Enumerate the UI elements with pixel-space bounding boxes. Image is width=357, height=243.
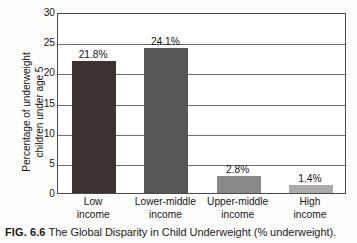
x-category-label-2-line-0: Upper-middle — [207, 196, 268, 209]
bar-3 — [289, 185, 333, 193]
figure-caption: FIG. 6.6 The Global Disparity in Child U… — [5, 226, 355, 239]
data-label-0: 21.8% — [79, 50, 108, 60]
y-tick-label-5: 5 — [30, 159, 55, 169]
y-tick-label-0: 0 — [30, 189, 55, 199]
x-category-label-0-line-0: Low — [77, 196, 110, 209]
gridline-25 — [58, 44, 345, 45]
data-label-1: 24.1% — [151, 37, 180, 47]
y-axis-tick-labels: 051015202530 — [30, 0, 55, 243]
y-tick-label-15: 15 — [30, 98, 55, 108]
x-category-label-2-line-1: income — [207, 209, 268, 222]
x-category-label-1: Lower-middleincome — [135, 196, 196, 221]
x-category-label-3-line-1: income — [293, 209, 326, 222]
data-label-3: 1.4% — [298, 174, 321, 184]
bar-2 — [217, 176, 261, 193]
y-tick-label-20: 20 — [30, 68, 55, 78]
x-category-label-3-line-0: High — [293, 196, 326, 209]
bar-1 — [144, 48, 188, 193]
figure-number: FIG. 6.6 — [5, 226, 46, 238]
x-category-label-2: Upper-middleincome — [207, 196, 268, 221]
x-category-label-0: Lowincome — [77, 196, 110, 221]
y-tick-label-30: 30 — [30, 8, 55, 18]
figure-caption-text: The Global Disparity in Child Underweigh… — [49, 226, 337, 238]
y-tick-label-25: 25 — [30, 38, 55, 48]
y-tick-label-10: 10 — [30, 129, 55, 139]
x-category-label-1-line-1: income — [135, 209, 196, 222]
data-label-2: 2.8% — [226, 165, 249, 175]
x-category-label-3: Highincome — [293, 196, 326, 221]
x-category-label-1-line-0: Lower-middle — [135, 196, 196, 209]
bar-0 — [72, 61, 116, 193]
x-category-label-0-line-1: income — [77, 209, 110, 222]
figure-container: Percentage of underweight children under… — [0, 0, 357, 243]
x-axis-category-labels: LowincomeLower-middleincomeUpper-middlei… — [57, 196, 346, 224]
plot-area — [57, 13, 346, 194]
